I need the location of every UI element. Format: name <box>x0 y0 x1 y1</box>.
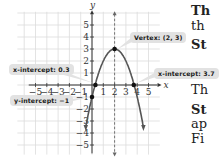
svg-text:1: 1 <box>83 68 89 78</box>
side-text-line: ap <box>191 117 207 130</box>
side-text-line: Th <box>191 4 210 17</box>
svg-text:−2: −2 <box>76 104 89 114</box>
svg-text:5: 5 <box>83 20 89 30</box>
y-intercept-point <box>90 95 95 100</box>
svg-text:4: 4 <box>83 32 89 42</box>
side-text-line: St <box>191 38 206 51</box>
y-intercept-callout: y-intercept: −1 <box>10 95 73 106</box>
svg-text:2: 2 <box>83 56 89 66</box>
svg-text:−1: −1 <box>76 92 89 102</box>
svg-text:−5: −5 <box>76 140 90 150</box>
x-intercept-right-callout: x-intercept: 3.7 <box>154 68 219 79</box>
x-intercept-right-point <box>132 83 137 88</box>
side-text-line: th <box>191 19 205 32</box>
side-text-line: Fi <box>191 132 204 145</box>
y-axis-label: y <box>89 0 96 10</box>
side-text-line: St <box>191 103 206 116</box>
svg-text:−4: −4 <box>76 128 90 138</box>
x-axis-label: x <box>164 80 169 90</box>
x-intercept-left-callout: x-intercept: 0.3 <box>9 64 74 75</box>
svg-text:3: 3 <box>83 44 89 54</box>
svg-text:3: 3 <box>123 87 129 97</box>
x-intercept-left-point <box>93 83 98 88</box>
svg-text:1: 1 <box>100 87 106 97</box>
svg-text:5: 5 <box>146 87 152 97</box>
side-text-line: Th <box>191 83 208 96</box>
vertex-callout: Vertex: (2, 3) <box>130 32 186 43</box>
parabola-graph: −5−4−3−2−112345−5−4−3−2−112345 x y <box>0 0 219 168</box>
vertex-point <box>112 47 117 52</box>
